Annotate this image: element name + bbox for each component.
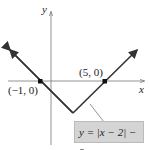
point-left	[38, 79, 43, 84]
point-right	[103, 79, 108, 84]
equation-box: y = |x − 2| − 3	[74, 121, 144, 143]
x-axis-label: x	[139, 83, 144, 95]
leader-line	[90, 104, 104, 122]
point-right-label: (5, 0)	[79, 66, 103, 78]
y-axis-label: y	[42, 3, 47, 15]
point-left-label: (−1, 0)	[8, 84, 38, 96]
